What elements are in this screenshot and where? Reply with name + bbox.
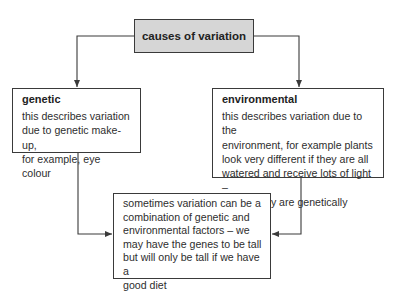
combination-description: sometimes variation can be a combination… <box>123 197 262 291</box>
environmental-box: environmental this describes variation d… <box>212 88 384 178</box>
genetic-description: this describes variation due to genetic … <box>22 109 131 180</box>
genetic-box: genetic this describes variation due to … <box>12 88 141 153</box>
title-box: causes of variation <box>134 19 254 53</box>
combination-box: sometimes variation can be a combination… <box>113 193 271 279</box>
arrow-title-to-environmental <box>254 36 299 87</box>
arrow-title-to-genetic <box>77 36 134 87</box>
genetic-heading: genetic <box>22 92 131 106</box>
diagram-title: causes of variation <box>142 30 246 42</box>
environmental-heading: environmental <box>222 92 374 106</box>
